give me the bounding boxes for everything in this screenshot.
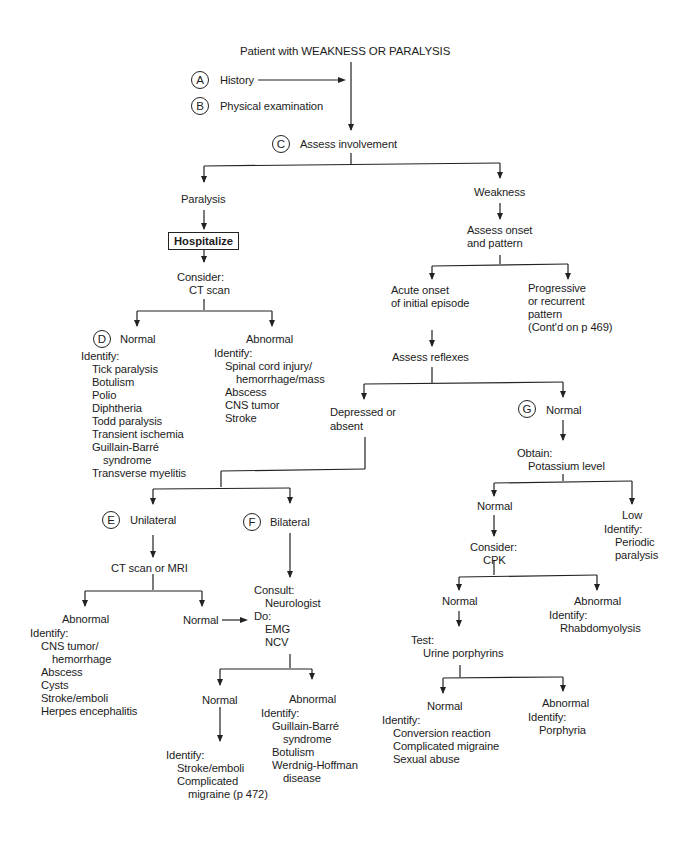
diagnosis-item: disease	[261, 772, 358, 785]
continued-page-ref: (Cont'd on p 469)	[528, 321, 612, 334]
node-paralysis: Paralysis	[181, 193, 225, 206]
diagnosis-item: Complicated	[166, 775, 268, 788]
node-progressive: Progressive or recurrent pattern (Cont'd…	[528, 282, 612, 334]
node-bilateral-normal: Normal	[202, 694, 237, 707]
step-marker-e: E	[102, 511, 120, 529]
node-bilateral-abnormal: Abnormal	[289, 693, 336, 706]
node-unilateral-abnormal: Abnormal	[62, 613, 109, 626]
node-test-label: Test:	[411, 634, 434, 647]
diagnosis-item: hemorrhage/mass	[214, 373, 325, 386]
do-label: Do:	[254, 610, 321, 623]
identify-label: Identify:	[30, 627, 137, 640]
identify-label: Identify:	[382, 714, 499, 727]
node-cpk: CPK	[483, 554, 506, 567]
node-urine-porphyrins: Urine porphyrins	[423, 647, 503, 660]
node-paralysis-abnormal: Abnormal	[246, 333, 293, 346]
node-bilateral: Bilateral	[270, 516, 310, 529]
diagnosis-item: Botulism	[261, 746, 358, 759]
step-history: History	[220, 74, 254, 87]
node-assess-pattern: and pattern	[467, 237, 523, 250]
diagnosis-item: Polio	[81, 389, 186, 402]
diagnosis-item: Rhabdomyolysis	[549, 622, 641, 635]
step-assess-involvement: Assess involvement	[300, 138, 397, 151]
node-paralysis-normal: Normal	[120, 333, 155, 346]
diagnosis-item: Diphtheria	[81, 402, 186, 415]
bilateral-normal-identify-list: Identify: Stroke/emboli Complicated migr…	[166, 749, 268, 801]
node-assess-onset: Assess onset	[467, 224, 532, 237]
diagnosis-item: CNS tumor	[214, 399, 325, 412]
identify-label: Identify:	[81, 350, 186, 363]
step-marker-b: B	[191, 97, 209, 115]
node-obtain-label: Obtain:	[517, 447, 552, 460]
node-consider-cpk-label: Consider:	[470, 541, 517, 554]
node-cpk-normal: Normal	[442, 595, 477, 608]
diagnosis-item: Transient ischemia	[81, 428, 186, 441]
node-depressed: Depressed or	[330, 406, 396, 419]
progressive-line: pattern	[528, 308, 612, 321]
identify-label: Identify:	[261, 707, 358, 720]
node-unilateral-normal: Normal	[183, 614, 218, 627]
node-cpk-abnormal: Abnormal	[574, 595, 621, 608]
diagnosis-item: Stroke/emboli	[166, 762, 268, 775]
diagnosis-item: Cysts	[30, 679, 137, 692]
identify-label: Identify:	[549, 609, 641, 622]
node-up-normal: Normal	[427, 700, 462, 713]
node-k-low: Low	[622, 509, 642, 522]
node-ct-or-mri: CT scan or MRI	[111, 562, 188, 575]
node-hospitalize: Hospitalize	[168, 232, 239, 250]
up-abnormal-identify-list: Identify: Porphyria	[528, 711, 586, 737]
step-marker-g: G	[518, 400, 536, 418]
node-acute-onset: Acute onset	[391, 284, 449, 297]
node-unilateral: Unilateral	[130, 514, 176, 527]
node-k-normal: Normal	[477, 500, 512, 513]
identify-label: Identify:	[214, 347, 325, 360]
diagnosis-item: Transverse myelitis	[81, 467, 186, 480]
diagnosis-item: Herpes encephalitis	[30, 705, 137, 718]
step-marker-f: F	[243, 513, 261, 531]
step-physical-exam: Physical examination	[220, 100, 323, 113]
diagnosis-item: CNS tumor/	[30, 640, 137, 653]
flowchart-title: Patient with WEAKNESS OR PARALYSIS	[240, 45, 450, 58]
bilateral-abnormal-identify-list: Identify: Guillain-Barré syndrome Botuli…	[261, 707, 358, 785]
diagnosis-item: syndrome	[81, 454, 186, 467]
node-assess-reflexes: Assess reflexes	[392, 351, 469, 364]
k-low-identify-list: Identify: Periodic paralysis	[604, 523, 658, 562]
diagnosis-item: Spinal cord injury/	[214, 360, 325, 373]
diagnosis-item: Stroke/emboli	[30, 692, 137, 705]
paralysis-abnormal-identify-list: Identify: Spinal cord injury/ hemorrhage…	[214, 347, 325, 425]
step-marker-c: C	[272, 135, 290, 153]
diagnosis-item: Guillain-Barré	[261, 720, 358, 733]
node-potassium-level: Potassium level	[528, 460, 605, 473]
node-weakness: Weakness	[474, 186, 525, 199]
diagnosis-item: Stroke	[214, 412, 325, 425]
node-reflex-normal: Normal	[546, 404, 581, 417]
diagnosis-item: paralysis	[604, 549, 658, 562]
identify-label: Identify:	[166, 749, 268, 762]
consult-value: Neurologist	[254, 597, 321, 610]
diagnosis-item: Werdnig-Hoffman	[261, 759, 358, 772]
consult-label: Consult:	[254, 584, 321, 597]
node-ct-scan: CT scan	[189, 284, 230, 297]
cpk-abnormal-identify-list: Identify: Rhabdomyolysis	[549, 609, 641, 635]
unilateral-abnormal-identify-list: Identify: CNS tumor/ hemorrhage Abscess …	[30, 627, 137, 718]
diagnosis-item: Guillain-Barré	[81, 441, 186, 454]
step-marker-d: D	[93, 330, 111, 348]
identify-label: Identify:	[604, 523, 658, 536]
diagnosis-item: Sexual abuse	[382, 753, 499, 766]
identify-label: Identify:	[528, 711, 586, 724]
step-marker-a: A	[191, 71, 209, 89]
diagnosis-item: migraine (p 472)	[166, 788, 268, 801]
diagnosis-item: Botulism	[81, 376, 186, 389]
diagnosis-item: Periodic	[604, 536, 658, 549]
diagnosis-item: syndrome	[261, 733, 358, 746]
diagnosis-item: Porphyria	[528, 724, 586, 737]
flowchart-canvas: Patient with WEAKNESS OR PARALYSIS A His…	[0, 0, 698, 842]
do-item: EMG	[254, 623, 321, 636]
diagnosis-item: Complicated migraine	[382, 740, 499, 753]
diagnosis-item: Conversion reaction	[382, 727, 499, 740]
node-consider-label: Consider:	[177, 271, 224, 284]
diagnosis-item: Abscess	[214, 386, 325, 399]
bilateral-workup: Consult: Neurologist Do: EMG NCV	[254, 584, 321, 649]
diagnosis-item: Abscess	[30, 666, 137, 679]
do-item: NCV	[254, 636, 321, 649]
